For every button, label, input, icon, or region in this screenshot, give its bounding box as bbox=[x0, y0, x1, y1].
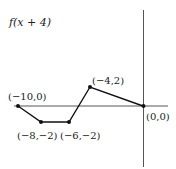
point-marker bbox=[16, 104, 20, 108]
point-marker bbox=[67, 120, 71, 124]
point-label: (−4,2) bbox=[92, 75, 124, 86]
chart-title: f(x + 4) bbox=[8, 16, 51, 29]
point-label: (−10,0) bbox=[8, 91, 47, 102]
point-label: (0,0) bbox=[146, 111, 170, 122]
point-label: (−6,−2) bbox=[60, 130, 101, 141]
point-marker bbox=[142, 104, 146, 108]
point-label: (−8,−2) bbox=[17, 130, 58, 141]
point-marker bbox=[39, 120, 43, 124]
function-graph: f(x + 4) (−10,0) (−8,−2) (−6,−2) (−4,2) … bbox=[0, 0, 176, 169]
